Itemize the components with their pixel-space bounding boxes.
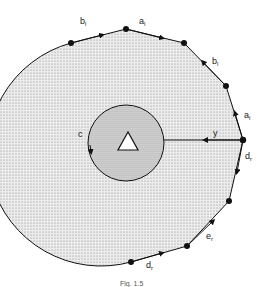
label-d-right: dr (245, 151, 252, 162)
label-b-right: bl (212, 56, 218, 67)
label-d-bottom: dr (146, 260, 153, 271)
label-c: c (78, 129, 83, 139)
diagram-canvas: bl al bl al c y dr er dr Fig. 1.5 (0, 0, 268, 287)
label-a-right: al (244, 110, 250, 121)
figure-caption: Fig. 1.5 (120, 280, 143, 287)
label-b-top: bl (80, 16, 86, 27)
label-e-lower: er (206, 231, 213, 242)
label-y: y (213, 128, 218, 138)
label-a-top: al (139, 16, 145, 27)
